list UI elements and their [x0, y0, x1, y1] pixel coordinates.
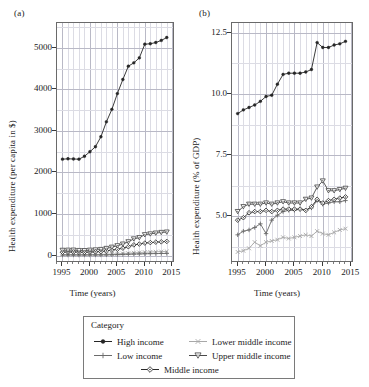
y-axis-tick-mark — [52, 88, 56, 89]
series-upper-middle-income — [235, 179, 348, 214]
legend-item-high-income[interactable]: High income — [93, 336, 164, 347]
panel-b-label: (b) — [199, 8, 210, 18]
x-axis-tick-label: 2015 — [341, 267, 359, 277]
y-axis-tick-mark — [227, 93, 231, 94]
x-axis-tick-mark — [344, 262, 345, 264]
x-axis-tick-mark — [276, 262, 277, 264]
y-axis-tick-label: 4000 — [34, 83, 52, 93]
lower-middle-income-marker-icon — [188, 336, 208, 347]
y-axis-tick-mark — [227, 32, 231, 33]
x-axis-tick-mark — [138, 262, 139, 264]
x-axis-tick-label: 1995 — [52, 267, 70, 277]
chart-panel-a: (a) Health expenditure (per capita in $)… — [0, 0, 185, 305]
x-axis-tick-mark — [67, 262, 68, 264]
x-axis-tick-mark — [339, 262, 340, 264]
x-axis-tick-mark — [89, 262, 90, 266]
panel-a-x-axis-title: Time (years) — [0, 288, 185, 298]
series-layer — [57, 23, 174, 262]
y-axis-tick-mark — [52, 171, 56, 172]
high-income-marker-icon — [93, 336, 113, 347]
x-axis-tick-mark — [310, 262, 311, 264]
x-axis-tick-mark — [56, 262, 57, 264]
panel-b-frame — [231, 22, 353, 262]
x-axis-tick-mark — [293, 262, 294, 266]
panel-a-y-axis-title: Health expenditure (per capita in $) — [7, 62, 17, 252]
series-layer — [232, 23, 353, 262]
legend-item-lower-middle-income[interactable]: Lower middle income — [188, 336, 291, 347]
x-axis-tick-mark — [94, 262, 95, 264]
x-axis-tick-mark — [171, 262, 172, 266]
y-axis-tick-mark — [52, 130, 56, 131]
x-axis-tick-label: 2010 — [135, 267, 153, 277]
y-axis-tick-mark — [227, 154, 231, 155]
series-high-income — [236, 40, 347, 115]
panel-a-plot-area: 0100020003000400050001995200020052010201… — [56, 22, 174, 262]
x-axis-tick-mark — [149, 262, 150, 264]
panel-b-y-axis-title: Health expenditure (% of GDP) — [191, 60, 201, 255]
x-axis-tick-mark — [111, 262, 112, 264]
legend-item-upper-middle-income[interactable]: Upper middle income — [188, 350, 290, 361]
x-axis-tick-mark — [122, 262, 123, 264]
x-axis-tick-mark — [116, 262, 117, 266]
x-axis-tick-mark — [350, 262, 351, 266]
x-axis-tick-mark — [259, 262, 260, 264]
series-middle-income — [235, 195, 347, 223]
x-axis-tick-mark — [100, 262, 101, 264]
legend-label: Middle income — [164, 365, 219, 375]
x-axis-tick-mark — [248, 262, 249, 264]
x-axis-tick-mark — [105, 262, 106, 264]
x-axis-tick-label: 2010 — [313, 267, 331, 277]
chart-panel-b: (b) Health expenditure (% of GDP) 5.07.5… — [185, 0, 369, 305]
x-axis-tick-mark — [166, 262, 167, 264]
series-high-income — [61, 36, 168, 161]
x-axis-tick-mark — [61, 262, 62, 266]
x-axis-tick-label: 2005 — [284, 267, 302, 277]
x-axis-tick-mark — [72, 262, 73, 264]
legend-item-middle-income[interactable]: Middle income — [140, 364, 219, 375]
y-axis-tick-label: 12.5 — [211, 27, 227, 37]
legend-title: Category — [91, 320, 124, 330]
x-axis-tick-mark — [155, 262, 156, 264]
x-axis-tick-mark — [254, 262, 255, 264]
y-axis-tick-mark — [52, 47, 56, 48]
figure-root: (a) Health expenditure (per capita in $)… — [0, 0, 369, 387]
middle-income-marker-icon — [140, 364, 160, 375]
x-axis-tick-mark — [144, 262, 145, 266]
x-axis-tick-label: 2005 — [107, 267, 125, 277]
x-axis-tick-mark — [78, 262, 79, 264]
upper-middle-income-marker-icon — [188, 350, 208, 361]
x-axis-tick-mark — [231, 262, 232, 264]
x-axis-tick-label: 2000 — [80, 267, 98, 277]
panel-b-plot-area: 5.07.510.012.519952000200520102015 — [231, 22, 353, 262]
legend-label: Low income — [117, 351, 162, 361]
x-axis-tick-mark — [237, 262, 238, 266]
y-axis-tick-label: 10.0 — [211, 88, 227, 98]
x-axis-tick-mark — [282, 262, 283, 264]
y-axis-tick-label: 7.5 — [216, 149, 227, 159]
x-axis-tick-label: 1995 — [228, 267, 246, 277]
low-income-marker-icon — [93, 350, 113, 361]
x-axis-tick-mark — [127, 262, 128, 264]
x-axis-tick-mark — [299, 262, 300, 264]
panel-a-label: (a) — [14, 8, 25, 18]
x-axis-tick-mark — [83, 262, 84, 264]
legend-label: Upper middle income — [212, 351, 290, 361]
x-axis-tick-mark — [271, 262, 272, 264]
y-axis-tick-mark — [52, 255, 56, 256]
legend-item-low-income[interactable]: Low income — [93, 350, 162, 361]
x-axis-tick-mark — [305, 262, 306, 264]
x-axis-tick-mark — [322, 262, 323, 266]
x-axis-tick-label: 2015 — [162, 267, 180, 277]
x-axis-tick-mark — [333, 262, 334, 264]
x-axis-tick-mark — [265, 262, 266, 266]
x-axis-tick-mark — [288, 262, 289, 264]
y-axis-tick-mark — [227, 215, 231, 216]
panel-b-x-axis-title: Time (years) — [185, 288, 369, 298]
panel-a-frame — [56, 22, 174, 262]
x-axis-tick-mark — [242, 262, 243, 264]
y-axis-tick-label: 5.0 — [216, 210, 227, 220]
x-axis-tick-mark — [133, 262, 134, 264]
x-axis-tick-label: 2000 — [256, 267, 274, 277]
y-axis-tick-label: 5000 — [34, 42, 52, 52]
y-axis-tick-label: 2000 — [34, 166, 52, 176]
